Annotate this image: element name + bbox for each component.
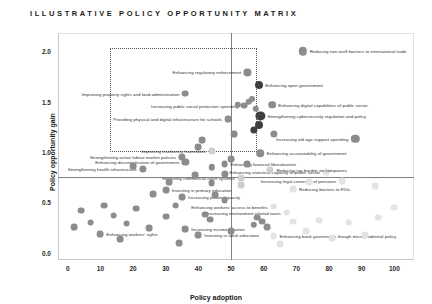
scatter-point[interactable] [208,164,214,170]
scatter-point[interactable] [208,180,215,187]
point-label: Reducing non-tariff barriers to internat… [310,49,407,54]
y-tick-label: 1.0 [42,149,51,156]
scatter-point[interactable] [123,220,130,227]
x-tick-label: 100 [389,265,400,272]
scatter-point[interactable] [133,205,140,212]
axis-top [58,33,414,34]
scatter-point[interactable] [257,149,265,157]
scatter-point[interactable] [299,47,307,55]
scatter-point[interactable] [224,115,231,122]
scatter-point[interactable] [182,159,189,166]
point-label: Enhancing regulatory enforcement [173,70,242,75]
scatter-point[interactable] [283,209,290,216]
point-label: Enhancing bank governance though micropr… [279,233,396,238]
scatter-point[interactable] [100,202,107,209]
scatter-point[interactable] [268,101,276,109]
scatter-point[interactable] [172,202,179,209]
scatter-point[interactable] [256,111,265,120]
scatter-point[interactable] [362,231,369,238]
scatter-point[interactable] [228,227,235,234]
axis-left [58,33,59,260]
scatter-point[interactable] [162,187,169,194]
scatter-point[interactable] [375,214,382,221]
scatter-point[interactable] [179,194,186,201]
scatter-point[interactable] [270,232,277,239]
x-tick-label: 60 [260,265,267,272]
scatter-point[interactable] [249,96,255,102]
scatter-point[interactable] [117,235,124,242]
scatter-point[interactable] [329,234,336,241]
chart-title: ILLUSTRATIVE POLICY OPPORTUNITY MATRIX [30,9,298,18]
scatter-point[interactable] [195,231,202,238]
scatter-point[interactable] [290,218,297,225]
scatter-point[interactable] [211,192,218,199]
scatter-point[interactable] [198,137,205,144]
scatter-point[interactable] [77,207,84,214]
scatter-point[interactable] [228,156,235,163]
scatter-point[interactable] [149,191,156,198]
scatter-point[interactable] [162,213,169,220]
point-label: Strengthening cybersecurity regulation a… [268,113,366,118]
y-tick-label: 0.5 [42,199,51,206]
scatter-point[interactable] [175,239,182,246]
scatter-point[interactable] [110,212,117,219]
y-tick-label: 1.5 [42,98,51,105]
scatter-point[interactable] [146,224,153,231]
scatter-point[interactable] [221,161,228,168]
scatter-point[interactable] [290,186,297,193]
y-tick-label: 0.0 [42,249,51,256]
scatter-point[interactable] [71,223,78,230]
scatter-point[interactable] [195,144,202,151]
scatter-point[interactable] [351,135,359,143]
scatter-point[interactable] [277,240,284,247]
scatter-point[interactable] [255,81,263,89]
scatter-point[interactable] [251,221,257,227]
point-label: Investing in primary education [172,188,232,193]
point-label: Providing physical and digital infrastru… [113,116,222,121]
scatter-point[interactable] [371,183,378,190]
reference-line-horizontal [58,177,414,178]
point-label: Increasing public social protection spen… [151,103,238,108]
scatter-point[interactable] [339,178,346,185]
x-tick-label: 40 [195,265,202,272]
scatter-point[interactable] [139,166,146,173]
y-tick-label: 2.0 [42,48,51,55]
scatter-point[interactable] [303,227,310,234]
scatter-point[interactable] [206,216,213,223]
scatter-point[interactable] [97,230,104,237]
x-tick-label: 50 [227,265,234,272]
scatter-point[interactable] [192,172,199,179]
scatter-point[interactable] [130,163,137,170]
plot-area: 0.00.51.01.52.0 0102030405060708090100 R… [58,33,414,260]
point-label: Enhancing open government [265,83,322,88]
x-tick-label: 30 [162,265,169,272]
scatter-point[interactable] [244,161,251,168]
scatter-point[interactable] [237,175,244,182]
point-label: Increasing environment related taxes [207,210,281,215]
point-label: Increasing legal coverage of pensions [261,179,337,184]
scatter-point[interactable] [345,219,352,226]
x-tick-label: 80 [325,265,332,272]
point-label: Enhancing accountability of government [267,151,347,156]
x-axis-label: Policy adoption [0,294,432,301]
axis-right [413,33,414,260]
scatter-point[interactable] [264,223,271,230]
scatter-point[interactable] [208,147,215,154]
scatter-point[interactable] [237,182,244,189]
scatter-point[interactable] [391,204,398,211]
scatter-point[interactable] [270,203,277,210]
scatter-point[interactable] [87,219,94,226]
x-tick-label: 70 [293,265,300,272]
scatter-point[interactable] [231,130,238,137]
scatter-point[interactable] [221,197,228,204]
scatter-point[interactable] [182,225,189,232]
scatter-point[interactable] [316,217,323,224]
scatter-point[interactable] [306,179,313,186]
point-label: Improving property rights and land admin… [82,91,180,96]
point-label: Enhancing workers' rights [106,231,157,236]
x-tick-label: 0 [66,265,70,272]
scatter-point[interactable] [166,179,173,186]
scatter-point[interactable] [182,90,189,97]
point-label: Enhancing financial liberalization [230,162,295,167]
point-label: Enhancing decentralisation of government [95,160,179,165]
